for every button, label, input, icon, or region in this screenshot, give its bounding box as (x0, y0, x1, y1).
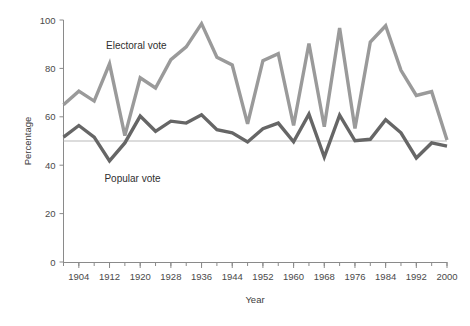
x-tick-label-1984: 1984 (375, 271, 396, 282)
y-axis-tick-labels: 020406080100 (40, 15, 56, 268)
x-tick-label-1976: 1976 (344, 271, 365, 282)
x-tick-label-1968: 1968 (314, 271, 335, 282)
x-tick-label-1944: 1944 (222, 271, 243, 282)
x-tick-label-1936: 1936 (191, 271, 212, 282)
line-chart: 020406080100 190419121920192819361944195… (0, 0, 470, 326)
x-tick-label-1920: 1920 (130, 271, 151, 282)
x-axis-tick-labels: 1904191219201928193619441952196019681976… (68, 271, 457, 282)
x-axis-title: Year (245, 294, 264, 305)
y-tick-label-100: 100 (40, 15, 56, 26)
y-tick-label-20: 20 (45, 208, 56, 219)
x-tick-label-1992: 1992 (406, 271, 427, 282)
plot-area: 020406080100 190419121920192819361944195… (40, 15, 458, 283)
y-tick-label-60: 60 (45, 111, 56, 122)
y-axis-ticks (60, 20, 64, 262)
x-tick-label-1904: 1904 (68, 271, 89, 282)
y-tick-label-40: 40 (45, 160, 56, 171)
x-tick-label-1960: 1960 (283, 271, 304, 282)
series-annotation-popular-vote: Popular vote (104, 173, 161, 184)
x-tick-label-1928: 1928 (160, 271, 181, 282)
y-axis-title: Percentage (22, 117, 33, 166)
chart-container: 020406080100 190419121920192819361944195… (0, 0, 470, 326)
y-tick-label-0: 0 (50, 257, 55, 268)
x-tick-label-1912: 1912 (99, 271, 120, 282)
x-tick-label-2000: 2000 (436, 271, 457, 282)
y-tick-label-80: 80 (45, 63, 56, 74)
series-annotation-electoral-vote: Electoral vote (106, 40, 167, 51)
x-tick-label-1952: 1952 (252, 271, 273, 282)
